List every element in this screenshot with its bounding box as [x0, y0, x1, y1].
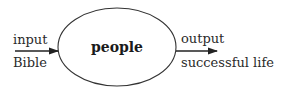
input-label: input: [13, 32, 48, 47]
output-label: output: [181, 31, 225, 46]
io-diagram: people input Bible output successful lif…: [0, 0, 282, 92]
input-value-label: Bible: [13, 55, 47, 70]
people-node-label: people: [91, 39, 143, 55]
output-value-label: successful life: [181, 55, 274, 70]
